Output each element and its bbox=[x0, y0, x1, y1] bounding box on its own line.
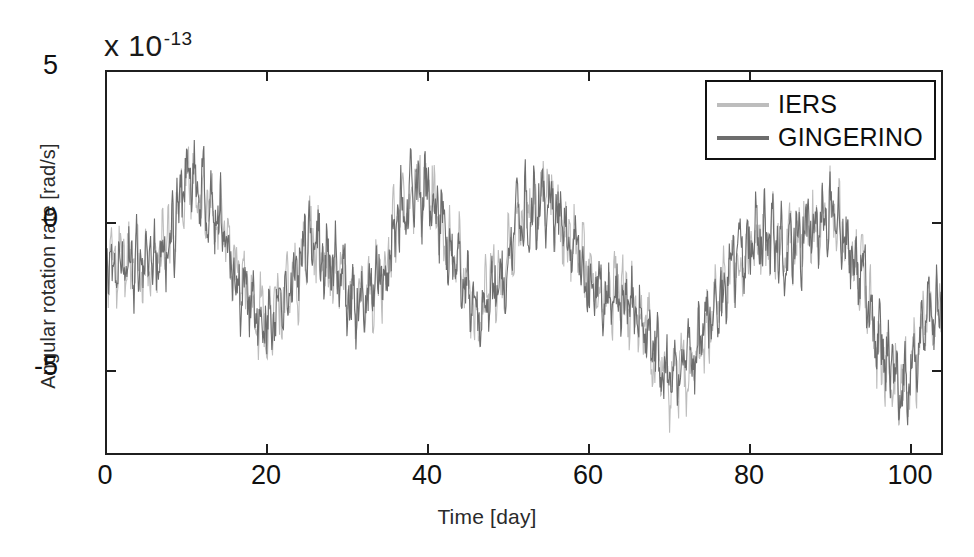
x-tick-60-top bbox=[588, 70, 590, 81]
exponent-mantissa: x 10 bbox=[104, 29, 163, 62]
legend-item-iers: IERS bbox=[707, 88, 934, 121]
y-tick-label-5: 5 bbox=[43, 52, 58, 79]
y-tick-label-0: 0 bbox=[43, 205, 58, 232]
x-axis-title: Time [day] bbox=[0, 505, 974, 529]
y-tick-0 bbox=[105, 222, 116, 224]
x-tick-40 bbox=[427, 444, 429, 455]
x-tick-label-80: 80 bbox=[734, 462, 764, 489]
legend-label-iers: IERS bbox=[778, 92, 837, 117]
chart-figure: x 10-13 Angular rotation rate [rad/s] Ti… bbox=[0, 0, 974, 557]
y-tick-m5 bbox=[105, 370, 116, 372]
y-tick-5 bbox=[105, 70, 116, 72]
x-tick-label-20: 20 bbox=[251, 462, 281, 489]
x-tick-0 bbox=[105, 444, 107, 455]
legend-item-gingerino: GINGERINO bbox=[707, 121, 934, 154]
y-tick-label-m5: -5 bbox=[34, 353, 58, 380]
x-tick-label-100: 100 bbox=[887, 462, 932, 489]
series-gingerino bbox=[107, 140, 941, 425]
x-tick-label-0: 0 bbox=[97, 462, 112, 489]
y-axis-exponent-label: x 10-13 bbox=[104, 24, 193, 61]
x-tick-80 bbox=[749, 444, 751, 455]
legend-label-gingerino: GINGERINO bbox=[778, 125, 923, 150]
x-tick-60 bbox=[588, 444, 590, 455]
exponent-power: -13 bbox=[164, 28, 193, 49]
x-tick-40-top bbox=[427, 70, 429, 81]
chart-legend: IERS GINGERINO bbox=[705, 80, 936, 160]
y-axis-title-wrapper: Angular rotation rate [rad/s] bbox=[33, 101, 63, 431]
x-tick-20 bbox=[266, 444, 268, 455]
y-tick-0-right bbox=[932, 222, 943, 224]
x-tick-100 bbox=[910, 444, 912, 455]
y-tick-m5-right bbox=[932, 370, 943, 372]
legend-line-iers-icon bbox=[717, 103, 769, 107]
x-tick-label-60: 60 bbox=[573, 462, 603, 489]
x-tick-20-top bbox=[266, 70, 268, 81]
legend-line-gingerino-icon bbox=[717, 136, 769, 140]
x-tick-label-40: 40 bbox=[412, 462, 442, 489]
